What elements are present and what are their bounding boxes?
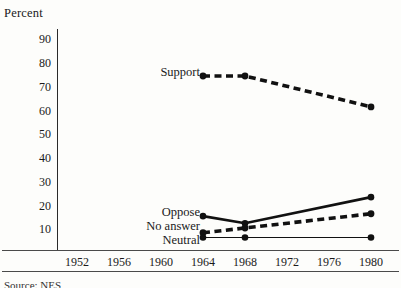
y-tick-label: 90 bbox=[25, 33, 51, 45]
source-note: Source: NES bbox=[4, 279, 61, 288]
x-tick-label: 1956 bbox=[99, 256, 139, 268]
x-tick-label: 1972 bbox=[267, 256, 307, 268]
series-line-neutral bbox=[200, 234, 375, 241]
x-tick-label: 1964 bbox=[183, 256, 223, 268]
x-tick-label: 1980 bbox=[351, 256, 391, 268]
series-label-no-answer: No answer bbox=[80, 220, 200, 233]
y-tick-label: 10 bbox=[25, 223, 51, 235]
series-label-oppose: Oppose bbox=[80, 206, 200, 219]
y-tick-label: 80 bbox=[25, 57, 51, 69]
y-tick-label: 50 bbox=[25, 128, 51, 140]
plot-area bbox=[0, 0, 401, 288]
bottom-rule bbox=[2, 271, 399, 272]
y-tick-label: 40 bbox=[25, 152, 51, 164]
y-tick-label: 60 bbox=[25, 105, 51, 117]
y-tick-label: 20 bbox=[25, 200, 51, 212]
line-chart: Percent 90 80 70 60 50 40 30 20 10 1952 … bbox=[0, 0, 401, 288]
x-tick-label: 1968 bbox=[225, 256, 265, 268]
x-tick-label: 1976 bbox=[309, 256, 349, 268]
y-axis-line bbox=[57, 29, 58, 250]
series-label-support: Support bbox=[90, 66, 200, 79]
y-tick-label: 30 bbox=[25, 176, 51, 188]
series-line-no-answer bbox=[200, 210, 375, 236]
series-line-support bbox=[200, 73, 375, 111]
x-tick-label: 1960 bbox=[141, 256, 181, 268]
y-axis-title: Percent bbox=[4, 6, 43, 21]
x-tick-label: 1952 bbox=[57, 256, 97, 268]
series-label-neutral: Neutral bbox=[80, 234, 200, 247]
y-tick-label: 70 bbox=[25, 81, 51, 93]
x-axis-rule bbox=[2, 250, 399, 251]
series-line-oppose bbox=[200, 194, 375, 227]
